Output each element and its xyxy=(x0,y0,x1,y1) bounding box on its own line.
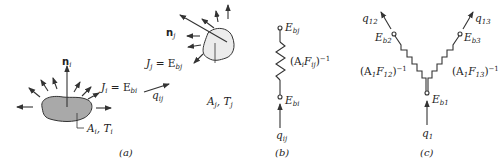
radiosity-j-label: Jj = Ebj xyxy=(146,58,182,71)
node-ebi xyxy=(278,95,282,99)
resistor-right xyxy=(428,36,459,91)
radiosity-i-label: Ji = Ebi xyxy=(101,82,137,95)
qij-label-b: qij xyxy=(276,130,287,143)
q13-arrow xyxy=(463,12,473,29)
surface-i xyxy=(17,66,111,128)
resistance-left-label: (A1F12)−1 xyxy=(360,66,407,79)
panel-b-network xyxy=(276,26,285,128)
node-ebj-label: Ebj xyxy=(285,22,299,35)
area-temp-i-label: Ai, Ti xyxy=(87,123,113,136)
resistance-b-label: (AiFij)−1 xyxy=(290,56,330,69)
surface-j-blob xyxy=(203,28,234,60)
radiation-network-diagram: ni Ji = Ebi Ai, Ti (a) qij nj Jj = Ebj A… xyxy=(0,0,503,167)
area-temp-j-label: Aj, Tj xyxy=(207,96,233,109)
surface-j xyxy=(180,5,234,63)
node-eb1-label: Eb1 xyxy=(432,94,449,107)
resistor-b xyxy=(276,42,285,80)
node-eb1 xyxy=(425,91,429,95)
normal-j-label: nj xyxy=(166,27,175,40)
node-eb2 xyxy=(392,32,396,36)
caption-b: (b) xyxy=(275,148,289,158)
resistor-left xyxy=(395,36,426,91)
qij-label-a: qij xyxy=(152,90,163,103)
node-eb3-label: Eb3 xyxy=(464,32,481,45)
node-eb2-label: Eb2 xyxy=(375,32,392,45)
normal-i-label: ni xyxy=(62,56,71,69)
q13-label: q13 xyxy=(475,13,491,26)
caption-c: (c) xyxy=(420,148,433,158)
node-ebj xyxy=(278,26,282,30)
diagram-graphics xyxy=(0,0,503,167)
q1-label: q1 xyxy=(422,128,433,141)
caption-a: (a) xyxy=(119,148,133,158)
q12-label: q12 xyxy=(362,13,378,26)
resistance-right-label: (A1F13)−1 xyxy=(452,66,499,79)
node-ebi-label: Ebi xyxy=(285,95,299,108)
q12-arrow xyxy=(381,12,391,29)
node-eb3 xyxy=(458,32,462,36)
